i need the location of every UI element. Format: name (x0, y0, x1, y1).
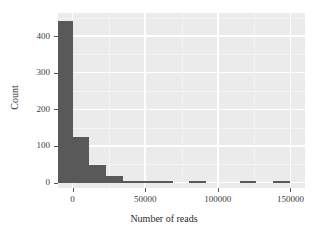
y-tick-label: 400 (4, 32, 50, 41)
x-tick-label: 50000 (105, 195, 185, 204)
x-tick-label: 100000 (178, 195, 258, 204)
histogram-bar (89, 165, 106, 182)
histogram-figure: 0100200300400 050000100000150000 Number … (0, 0, 328, 237)
plot-panel (58, 13, 305, 188)
gridline-minor-vertical (109, 13, 110, 188)
histogram-bar (139, 181, 156, 182)
x-tick-mark (73, 188, 74, 192)
y-axis-title: Count (9, 48, 20, 148)
x-tick-mark (145, 188, 146, 192)
histogram-bar (240, 181, 257, 182)
x-axis-title: Number of reads (0, 213, 328, 224)
y-tick-mark (54, 73, 58, 74)
x-tick-label: 0 (33, 195, 113, 204)
x-tick-mark (290, 188, 291, 192)
histogram-bar (156, 181, 173, 182)
histogram-bar (58, 21, 73, 182)
gridline-minor-vertical (254, 13, 255, 188)
gridline-major-vertical (290, 13, 291, 188)
y-tick-mark (54, 146, 58, 147)
x-tick-label: 150000 (250, 195, 328, 204)
y-tick-mark (54, 109, 58, 110)
gridline-major-vertical (217, 13, 218, 188)
histogram-bar (123, 181, 140, 182)
histogram-bar (273, 181, 290, 182)
y-tick-mark (54, 183, 58, 184)
gridline-major-vertical (144, 13, 145, 188)
histogram-bar (189, 181, 206, 182)
x-tick-mark (218, 188, 219, 192)
histogram-bar (73, 137, 90, 183)
histogram-bar (106, 176, 123, 182)
y-tick-label: 0 (4, 178, 50, 187)
gridline-minor-vertical (182, 13, 183, 188)
y-tick-mark (54, 36, 58, 37)
